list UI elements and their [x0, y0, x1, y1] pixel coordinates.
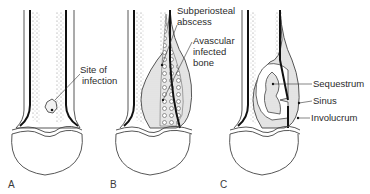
- panel-label-b: B: [110, 179, 117, 190]
- panel-label-a: A: [8, 179, 15, 190]
- panel-a-bone: [12, 10, 83, 175]
- label-abscess: abscess: [177, 16, 212, 27]
- osteomyelitis-diagram: Site of infection A Subperiosteal absces…: [0, 0, 370, 194]
- label-bone: bone: [193, 57, 214, 68]
- label-sequestrum: Sequestrum: [313, 78, 364, 89]
- label-site-of: Site of: [80, 64, 107, 75]
- label-infection: infection: [82, 75, 117, 86]
- infection-site: [45, 99, 57, 113]
- label-sinus: Sinus: [313, 95, 337, 106]
- panel-c-bone: [230, 10, 312, 175]
- panel-b-bone: [116, 10, 192, 175]
- label-subperiosteal: Subperiosteal: [177, 5, 235, 16]
- panel-label-c: C: [220, 179, 227, 190]
- label-infected: infected: [193, 46, 226, 57]
- label-involucrum: Involucrum: [311, 112, 358, 123]
- label-avascular: Avascular: [193, 35, 235, 46]
